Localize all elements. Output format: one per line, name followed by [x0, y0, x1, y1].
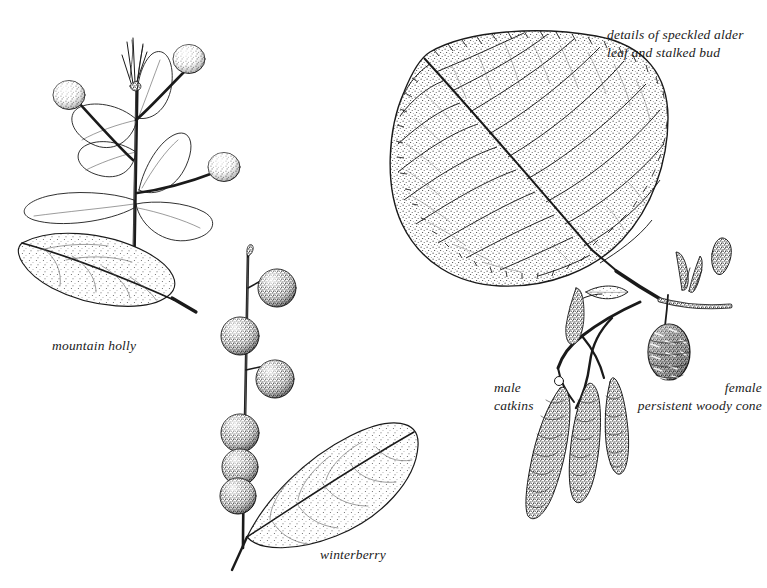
caption-female-cone: female persistent woody cone	[612, 379, 762, 415]
winterberry-berry	[220, 269, 296, 514]
caption-female-line2: persistent woody cone	[612, 397, 762, 415]
speckled-alder-leaf	[390, 31, 668, 300]
alder-stalked-bud-detail	[660, 238, 731, 307]
caption-winterberry: winterberry	[320, 546, 386, 564]
caption-male-line2: catkins	[494, 397, 534, 415]
illustration-plate: details of speckled alder leaf and stalk…	[0, 0, 767, 588]
caption-mountain-holly: mountain holly	[52, 337, 136, 355]
alder-female-cone	[648, 295, 690, 380]
terminal-bud-cluster	[122, 38, 147, 91]
caption-alder-line1: details of speckled alder	[607, 26, 744, 44]
mountain-holly-leaf-detail	[19, 233, 196, 312]
caption-alder-detail: details of speckled alder leaf and stalk…	[607, 26, 744, 62]
mountain-holly-branch	[19, 38, 240, 312]
caption-alder-line2: leaf and stalked bud	[607, 44, 744, 62]
caption-male-catkins: male catkins	[494, 379, 534, 415]
mountain-holly-berry	[53, 45, 240, 182]
caption-female-line1: female	[612, 379, 762, 397]
caption-male-line1: male	[494, 379, 534, 397]
winterberry-twig	[220, 245, 418, 570]
botanical-illustration-artwork	[0, 0, 767, 588]
